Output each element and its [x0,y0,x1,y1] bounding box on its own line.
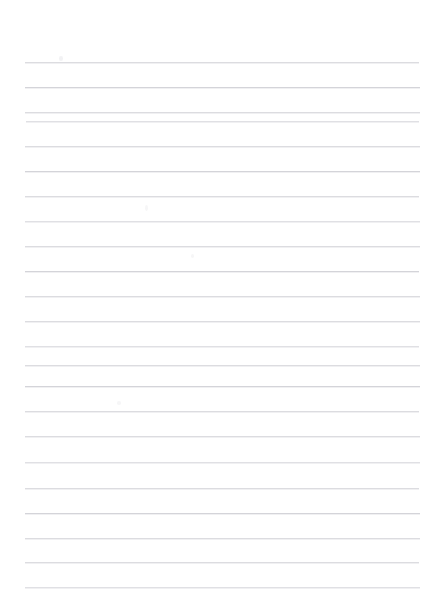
rule-line [25,112,420,113]
paper-smudge-mark [145,205,148,211]
rule-line [25,146,420,147]
rule-line [25,513,420,514]
lined-paper-page [0,0,441,614]
rule-line [25,562,419,563]
rule-line [25,462,420,463]
rule-line [25,488,419,489]
rule-line [25,365,420,366]
rule-line [25,171,420,172]
rule-line [25,296,420,297]
rule-line [25,87,420,88]
rule-line [25,411,419,412]
paper-smudge-mark [191,254,194,258]
ruled-lines-layer [0,0,441,614]
rule-line [25,196,419,197]
rule-line [26,121,419,122]
rule-line [25,62,419,63]
rule-line [25,321,420,322]
paper-smudge-mark [59,56,63,61]
rule-line [25,538,420,539]
rule-line [25,246,420,247]
rule-line [25,346,419,347]
rule-line [25,436,420,437]
rule-line [25,587,420,588]
rule-line [25,386,420,387]
rule-line [25,221,420,222]
paper-smudge-mark [117,401,121,405]
rule-line [25,271,419,272]
